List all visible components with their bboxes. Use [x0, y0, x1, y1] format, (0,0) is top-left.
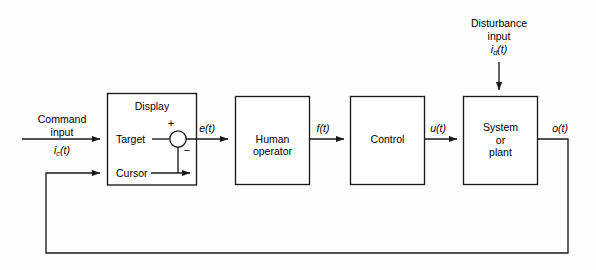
disturbance-input-symbol: id(t) [491, 43, 507, 59]
signal-error-label: e(t) [199, 122, 215, 135]
block-human-operator-line2: operator [253, 145, 292, 158]
disturbance-input-label-line1: Disturbance [471, 17, 527, 30]
block-display-row-target: Target [116, 133, 145, 146]
command-input-symbol: ic(t) [54, 144, 70, 160]
signal-output-label: o(t) [552, 122, 568, 135]
signal-control-output-label: u(t) [430, 122, 446, 135]
block-diagram: Command input ic(t) Disturbance input id… [0, 0, 596, 270]
signal-force-label: f(t) [317, 122, 330, 135]
block-display-title: Display [135, 100, 169, 113]
disturbance-input-label-line2: input [488, 30, 511, 43]
command-symbol-arg: (t) [60, 144, 70, 156]
block-system-plant-line3: plant [489, 146, 512, 159]
disturbance-symbol-arg: (t) [497, 43, 507, 55]
block-system-plant-line1: System [483, 121, 518, 134]
summing-junction-minus: − [184, 144, 190, 157]
block-human-operator-line1: Human [256, 133, 290, 146]
block-system-plant-line2: or [496, 134, 505, 147]
summing-junction-plus: + [168, 117, 174, 130]
command-input-label-line1: Command [38, 113, 86, 126]
command-input-label-line2: input [51, 126, 74, 139]
block-display-row-cursor: Cursor [116, 167, 148, 180]
block-control-line1: Control [371, 133, 405, 146]
